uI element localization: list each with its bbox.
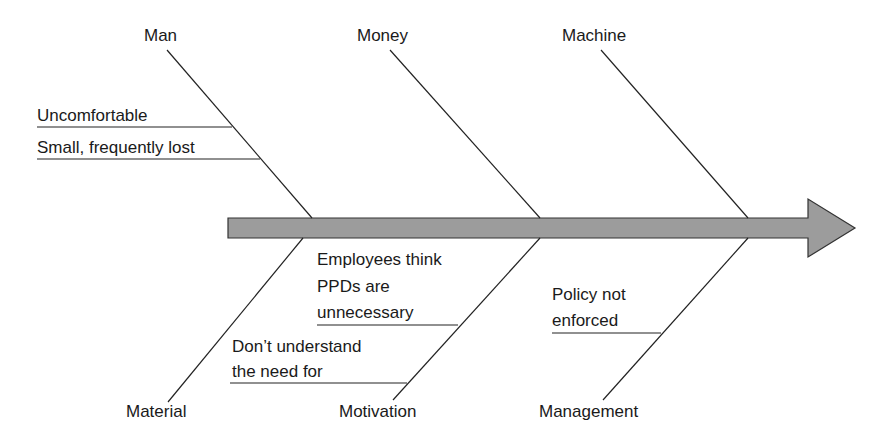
category-material: Material [126, 402, 186, 422]
fishbone-diagram [0, 0, 889, 440]
cause-employees-line1: Employees think [317, 249, 442, 270]
cause-small-lost: Small, frequently lost [37, 137, 195, 158]
category-man: Man [144, 26, 177, 46]
category-motivation: Motivation [339, 402, 416, 422]
category-money: Money [357, 26, 408, 46]
bone-man [167, 50, 312, 218]
cause-employees-line2: PPDs are [317, 276, 390, 297]
bone-management [603, 238, 748, 400]
cause-policy-line1: Policy not [552, 284, 626, 305]
bone-money [390, 50, 540, 218]
cause-dont-understand-line2: the need for [232, 361, 323, 382]
category-management: Management [539, 402, 638, 422]
cause-dont-understand-line1: Don’t understand [232, 336, 361, 357]
bone-machine [601, 50, 748, 218]
cause-uncomfortable: Uncomfortable [37, 105, 148, 126]
cause-policy-line2: enforced [552, 310, 618, 331]
category-machine: Machine [562, 26, 626, 46]
cause-employees-line3: unnecessary [317, 302, 413, 323]
